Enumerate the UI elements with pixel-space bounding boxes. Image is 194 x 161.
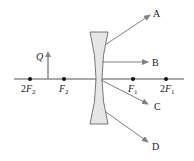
point-2F2: [28, 77, 32, 81]
ray-B-label: B: [152, 57, 159, 68]
diverging-lens: [90, 32, 108, 124]
ray-A-label: A: [153, 8, 161, 19]
ray-D: [106, 112, 148, 142]
label-2F2: 2F2: [21, 83, 36, 96]
object-label: Q: [36, 51, 44, 62]
point-F1: [131, 77, 135, 81]
ray-C-label: C: [154, 101, 161, 112]
lens-ray-diagram: Q 2F2 F2 F1 2F1 A B C D: [0, 0, 194, 161]
ray-D-label: D: [152, 141, 159, 152]
label-F2: F2: [58, 83, 69, 96]
point-2F1: [164, 77, 168, 81]
point-F2: [62, 77, 66, 81]
object-arrowhead-icon: [45, 51, 51, 57]
ray-A: [105, 15, 150, 45]
label-2F1: 2F1: [160, 83, 175, 96]
ray-C: [101, 80, 148, 104]
